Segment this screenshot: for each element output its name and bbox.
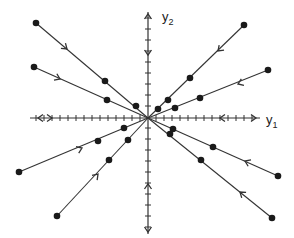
trajectory-point xyxy=(106,157,113,164)
trajectory-upper-left-shallow xyxy=(31,64,148,118)
trajectory-point xyxy=(102,78,109,85)
trajectory-point xyxy=(104,97,111,104)
trajectory-point xyxy=(31,64,38,71)
trajectory-point xyxy=(16,169,23,176)
trajectory-lower-right-steep xyxy=(148,118,275,221)
trajectory-lower-left-steep xyxy=(54,118,148,219)
trajectory-point xyxy=(54,213,61,220)
trajectory-point xyxy=(172,105,179,112)
trajectory-point xyxy=(33,20,40,27)
trajectory-point xyxy=(275,173,282,180)
trajectory-lower-right-shallow xyxy=(148,118,281,179)
trajectory-point xyxy=(121,125,128,132)
trajectory-point xyxy=(198,157,205,164)
trajectory-point xyxy=(197,95,204,102)
trajectory-upper-right-shallow xyxy=(148,67,271,118)
trajectory-point xyxy=(95,138,102,145)
trajectory-point xyxy=(155,106,162,113)
trajectory-upper-right-steep xyxy=(148,22,247,118)
trajectory-point xyxy=(265,67,272,74)
y1-axis-label: y1 xyxy=(266,113,278,130)
trajectory-lower-left-shallow xyxy=(16,118,148,175)
y2-axis-label: y2 xyxy=(162,10,174,27)
trajectory-point xyxy=(187,75,194,82)
trajectory-point xyxy=(125,137,132,144)
trajectory-point xyxy=(133,103,140,110)
axes xyxy=(30,12,260,234)
trajectory-point xyxy=(210,144,217,151)
trajectory-point xyxy=(167,131,174,138)
phase-portrait xyxy=(0,0,294,238)
trajectory-point xyxy=(269,215,276,222)
trajectory-point xyxy=(241,22,248,29)
trajectory-upper-left-steep xyxy=(33,20,148,118)
trajectory-point xyxy=(165,97,172,104)
